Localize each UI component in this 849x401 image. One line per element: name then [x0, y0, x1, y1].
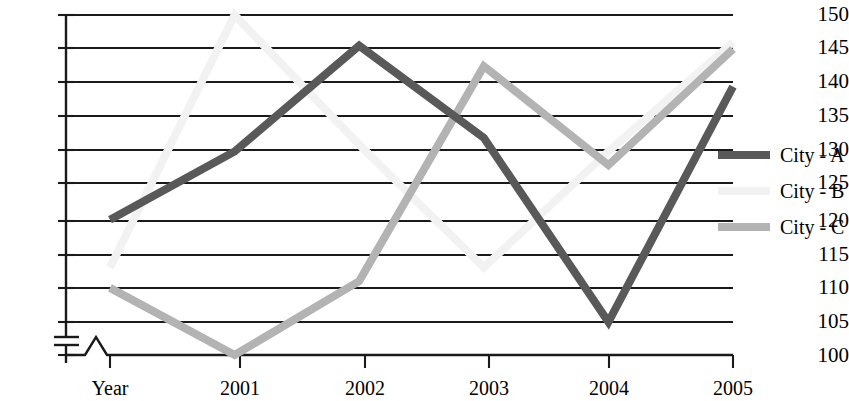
x-tick-label-2001: 2001	[190, 378, 290, 398]
x-tick-label-2003: 2003	[439, 378, 539, 398]
legend-swatch-city-a	[718, 151, 770, 159]
legend-label-city-c: City - C	[780, 217, 844, 237]
x-tick-label-2002: 2002	[315, 378, 415, 398]
legend-label-city-b: City - B	[780, 181, 844, 201]
x-tick-label-year: Year	[60, 378, 160, 398]
x-tick-marks	[110, 355, 733, 368]
x-tick-label-2004: 2004	[559, 378, 659, 398]
legend-label-city-a: City - A	[780, 145, 844, 165]
axis-break-marks	[54, 337, 79, 345]
x-axis-baseline	[66, 337, 733, 355]
legend-swatch-city-b	[718, 187, 770, 195]
plot-area	[0, 0, 849, 401]
legend-swatch-city-c	[718, 223, 770, 231]
line-chart: 150 145 140 135 130 125 120 115 110 105 …	[0, 0, 849, 401]
x-tick-label-2005: 2005	[683, 378, 783, 398]
